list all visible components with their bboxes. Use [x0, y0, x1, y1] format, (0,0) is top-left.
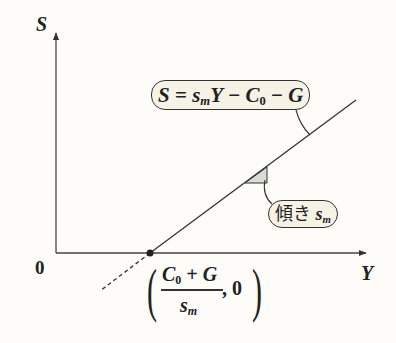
diagram-canvas	[0, 0, 396, 343]
equation-bubble: S = smY − C0 − G	[151, 80, 310, 110]
origin-label: 0	[35, 258, 45, 277]
fraction-bar	[161, 289, 223, 291]
slope-bubble: 傾き sm	[268, 200, 338, 228]
eq-lhs: S	[158, 83, 170, 107]
eq-s-sub: m	[200, 94, 210, 108]
right-paren: )	[252, 256, 262, 325]
slope-callout	[264, 180, 272, 204]
eq-minus-1: −	[223, 83, 245, 107]
equation-callout	[296, 110, 310, 135]
slope-s: s	[316, 204, 323, 224]
second-coordinate: , 0	[222, 277, 242, 300]
eq-g: G	[288, 83, 303, 107]
slope-triangle	[245, 167, 267, 183]
eq-c: C	[245, 83, 259, 107]
left-paren: (	[147, 256, 157, 325]
fraction-numerator: C0 + G	[162, 263, 217, 288]
dashed-extension	[100, 253, 150, 291]
slope-s-sub: m	[323, 213, 331, 225]
eq-minus-2: −	[266, 83, 288, 107]
x-axis-label: Y	[361, 263, 373, 283]
y-axis-label: S	[36, 14, 47, 34]
slope-text: 傾き	[275, 204, 316, 224]
eq-y: Y	[210, 83, 223, 107]
fraction-denominator: sm	[180, 294, 197, 319]
savings-line	[150, 100, 356, 253]
eq-equals: =	[170, 83, 192, 107]
